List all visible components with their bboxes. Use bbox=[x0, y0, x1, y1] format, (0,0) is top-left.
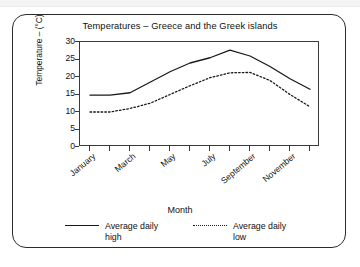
chart-figure-frame: Temperatures – Greece and the Greek isla… bbox=[12, 14, 346, 248]
legend-item: Average daily low bbox=[193, 221, 295, 242]
solid-line-icon bbox=[65, 221, 99, 230]
plot-lines-svg bbox=[80, 42, 320, 147]
dotted-line-icon bbox=[193, 221, 227, 230]
chart-title: Temperatures – Greece and the Greek isla… bbox=[13, 21, 347, 31]
y-axis-tick-label: 30 bbox=[57, 37, 75, 46]
y-axis-tick-label: 0 bbox=[57, 142, 75, 151]
y-axis-title: Temperature – (°C) bbox=[34, 0, 44, 102]
legend-item-label: Average daily high bbox=[105, 221, 167, 242]
y-axis-tick-label: 20 bbox=[57, 72, 75, 81]
top-band bbox=[0, 0, 360, 7]
plot-area bbox=[79, 41, 319, 146]
y-axis-tick-labels: 051015202530 bbox=[53, 41, 75, 146]
series-line-average-daily-high bbox=[90, 50, 310, 95]
chart-legend: Average daily highAverage daily low bbox=[13, 221, 347, 242]
x-axis-tick-labels: JanuaryMarchMayJulySeptemberNovember bbox=[79, 151, 339, 207]
y-axis-tick-label: 10 bbox=[57, 107, 75, 116]
legend-item: Average daily high bbox=[65, 221, 167, 242]
y-axis-tick-label: 25 bbox=[57, 54, 75, 63]
y-axis-tick-label: 15 bbox=[57, 89, 75, 98]
y-axis-tick-label: 5 bbox=[57, 124, 75, 133]
x-axis-title: Month bbox=[13, 205, 347, 215]
legend-item-label: Average daily low bbox=[233, 221, 295, 242]
series-line-average-daily-low bbox=[90, 72, 310, 112]
